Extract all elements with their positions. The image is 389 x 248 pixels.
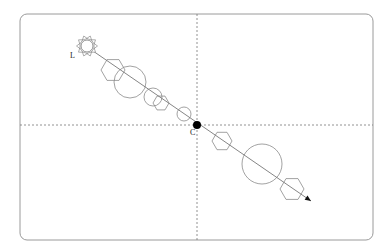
center-label: C — [190, 128, 195, 137]
sun-icon — [77, 36, 98, 56]
flare-circle — [242, 144, 282, 184]
sun-ray — [77, 43, 80, 48]
sun-ray — [94, 43, 97, 48]
flare-axis-line — [93, 51, 311, 201]
flare-circle — [114, 66, 146, 98]
lens-flare-diagram: L C — [0, 0, 389, 248]
light-source-label: L — [70, 51, 75, 60]
sun-ray — [87, 52, 92, 56]
sun-core — [81, 40, 93, 52]
flare-elements — [101, 60, 304, 200]
sun-ray — [82, 36, 87, 40]
arrowhead-icon — [305, 196, 311, 201]
